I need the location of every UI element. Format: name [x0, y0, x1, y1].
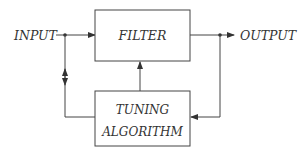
tuning-label-line2: ALGORITHM [101, 125, 183, 139]
filter-block: FILTER [95, 10, 190, 61]
filter-label: FILTER [118, 28, 167, 43]
tuning-algorithm-block: TUNING ALGORITHM [95, 91, 190, 146]
tuning-label-line1: TUNING [116, 103, 170, 117]
block-diagram: INPUT FILTER OUTPUT TUNING ALGORITHM [0, 0, 306, 152]
input-feed-line-lower [65, 84, 95, 117]
output-feedback-line [191, 35, 220, 117]
output-label: OUTPUT [240, 28, 298, 43]
input-label: INPUT [13, 28, 59, 43]
